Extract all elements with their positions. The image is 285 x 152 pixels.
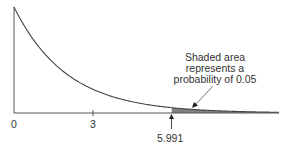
annotation-text: Shaded area represents a probability of … (160, 52, 270, 85)
annotation-leader (196, 86, 213, 104)
tick-label-0: 0 (11, 119, 17, 130)
annotation-line-3: probability of 0.05 (160, 74, 270, 85)
critical-value-label: 5.991 (157, 133, 183, 144)
critical-arrowhead-icon (169, 114, 174, 119)
tick-label-3: 3 (90, 119, 96, 130)
